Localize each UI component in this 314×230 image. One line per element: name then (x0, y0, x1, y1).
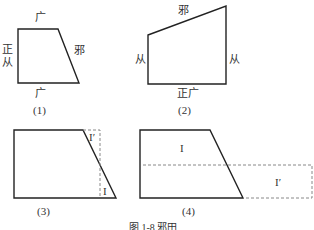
fig1-label-top: 广 (35, 12, 46, 23)
fig2-trapezoid (148, 6, 226, 84)
fig3-trapezoid (14, 130, 116, 198)
fig4-dashed-rect (143, 165, 312, 198)
fig1-label-left-2: 从 (2, 57, 13, 68)
fig4-caption: (4) (182, 205, 195, 217)
fig1-caption: (1) (33, 104, 46, 116)
fig3-label-region-bottom: I (103, 186, 107, 197)
fig3-label-region-top: I′ (89, 132, 95, 143)
fig4-label-region-top: I (180, 143, 184, 154)
fig2-label-left: 从 (135, 54, 146, 65)
fig4-label-region-right: I′ (275, 177, 281, 188)
diagram-canvas (0, 0, 314, 230)
fig2-label-slant: 邪 (178, 5, 189, 16)
fig4-trapezoid (140, 130, 243, 198)
figure-caption: 图 1-8 邪田 (129, 222, 177, 230)
fig1-label-left-1: 正 (2, 44, 13, 55)
fig1-trapezoid (18, 29, 79, 83)
fig1-label-bottom: 广 (35, 88, 46, 99)
fig2-label-right: 从 (229, 54, 240, 65)
fig2-caption: (2) (178, 104, 191, 116)
fig2-label-bottom: 正广 (177, 88, 199, 99)
fig1-label-slant: 邪 (74, 45, 85, 56)
fig3-caption: (3) (37, 205, 50, 217)
